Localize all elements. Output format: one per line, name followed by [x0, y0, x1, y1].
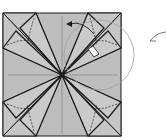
pointer-arrow-icon: [150, 32, 166, 41]
origami-diagram: [0, 0, 166, 140]
